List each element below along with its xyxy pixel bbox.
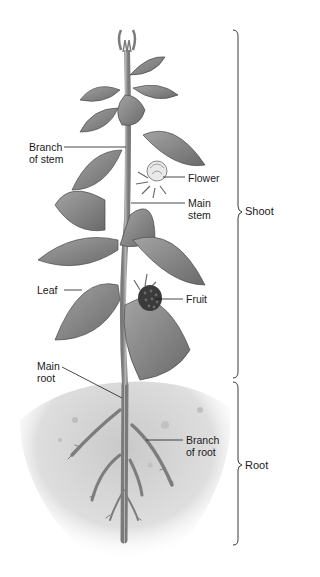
label-fruit: Fruit [186,293,207,305]
bracket-label-shoot: Shoot [245,205,274,217]
label-leaf: Leaf [37,284,57,296]
label-main-root: Main root [37,360,60,384]
label-branch-of-root: Branch of root [186,434,219,458]
shoot-bracket [233,30,242,378]
label-branch-of-stem: Branch of stem [29,141,63,165]
root-bracket [233,382,242,545]
label-main-stem: Main stem [188,197,211,221]
flower [136,161,167,198]
label-flower: Flower [188,172,220,184]
bracket-label-root: Root [245,459,268,471]
